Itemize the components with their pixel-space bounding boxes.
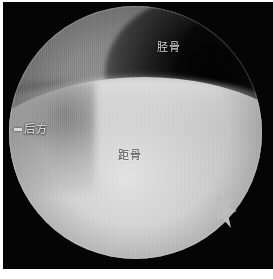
tissue-spur-shape — [217, 194, 243, 228]
posterior-pointer-tick-icon — [14, 128, 22, 131]
label-tibia: 胫骨 — [157, 42, 180, 53]
talus-left-shading — [9, 82, 95, 193]
label-posterior: 后方 — [24, 124, 47, 135]
tissue-spur-icon — [217, 194, 243, 228]
screenshot-viewport: 胫骨 距骨 后方 — [0, 0, 273, 279]
label-talus: 距骨 — [118, 150, 141, 161]
arthroscopy-image-plate: 胫骨 距骨 后方 — [3, 2, 273, 269]
